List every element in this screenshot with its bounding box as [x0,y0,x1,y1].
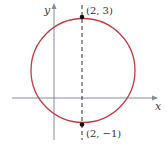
point-bottom-label: (2, −1) [86,128,121,139]
point-top [80,15,85,20]
y-axis-arrow-icon [52,3,57,9]
circle [31,19,135,123]
point-bottom [80,122,85,127]
diagram-canvas: y x (2, 3) (2, −1) [0,0,167,146]
x-axis-label: x [155,100,162,113]
point-top-label: (2, 3) [86,5,113,16]
circle-diagram: y x (2, 3) (2, −1) [0,0,167,146]
y-axis-label: y [43,4,51,17]
